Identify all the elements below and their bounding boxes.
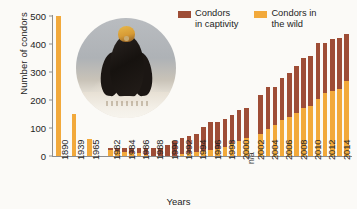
x-tick-label-1986: 1986 [141,140,151,160]
x-axis-title: Years [0,196,357,207]
x-tick-label-1982: 1982 [112,140,122,160]
legend-swatch-captivity [178,11,191,18]
legend-item-condors-in-the-wild[interactable]: Condors in the wild [254,8,316,29]
x-tick-label-1994: 1994 [198,140,208,160]
x-tick-label-1998: 1998 [227,140,237,160]
chart-legend: Condors in captivity Condors in the wild [178,8,316,29]
x-tick-label-2006: 2006 [284,140,294,160]
x-tick-label-2000: 2000 [241,140,251,160]
x-tick-label-1996: 1996 [213,140,223,160]
y-tick-mark [49,72,52,73]
x-tick-label-2004: 2004 [270,140,280,160]
x-tick-label-1990: 1990 [170,140,180,160]
x-tick-label-1939: 1939 [76,140,86,160]
x-tick-label-2010: 2010 [313,140,323,160]
legend-item-condors-in-captivity[interactable]: Condors in captivity [178,8,238,29]
legend-label-captivity: Condors in captivity [195,8,238,29]
x-tick-label-2008: 2008 [299,140,309,160]
x-tick-label-1992: 1992 [184,140,194,160]
x-tick-label-1988: 1988 [155,140,165,160]
y-tick-mark [49,156,52,157]
y-tick-mark [49,128,52,129]
legend-label-wild: Condors in the wild [271,8,316,29]
x-tick-label-1984: 1984 [127,140,137,160]
legend-swatch-wild [254,11,267,18]
x-tick-label-2014: 2014 [342,140,352,160]
y-tick-mark [49,100,52,101]
x-tick-label-1965: 1965 [91,140,101,160]
x-axis-tick-labels: 1890193919651982198419861988199019921994… [0,0,357,209]
x-tick-label-2002: 2002 [256,140,266,160]
x-tick-label-1890: 1890 [60,140,70,160]
x-tick-label-2012: 2012 [327,140,337,160]
y-tick-mark [49,44,52,45]
chart-figure: Number of condors 0100200300400500 n/a 1… [0,0,357,209]
y-tick-mark [49,16,52,17]
